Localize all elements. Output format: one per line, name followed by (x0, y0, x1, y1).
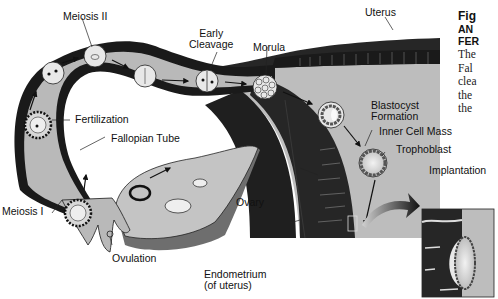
figure-body-line-4: the (458, 89, 498, 103)
meiosis-i-cell (65, 200, 91, 226)
label-endometrium: Endometrium (of uterus) (204, 269, 266, 291)
blastocyst-cell (318, 102, 344, 128)
trophoblast-cell (359, 149, 387, 177)
figure-heading-line-1: AN (458, 23, 498, 35)
fertilization-cell (25, 112, 51, 138)
figure-caption: Fig AN FER The Fal clea the the (458, 10, 498, 116)
morula-cell (253, 75, 277, 99)
figure-body: The Fal clea the the (458, 48, 498, 116)
label-early-cleavage: Early Cleavage (189, 28, 233, 50)
label-ovulation: Ovulation (112, 253, 156, 264)
figure-body-line-2: Fal (458, 62, 498, 76)
figure-title: Fig (458, 10, 498, 23)
early-cleavage-cell (196, 70, 218, 92)
label-fertilization: Fertilization (75, 114, 129, 125)
label-trophoblast: Trophoblast (396, 144, 451, 155)
label-morula: Morula (253, 42, 285, 53)
two-cell-stage (134, 65, 156, 87)
label-uterus: Uterus (365, 7, 396, 18)
label-inner-cell-mass: Inner Cell Mass (379, 126, 452, 137)
label-ovary: Ovary (236, 197, 264, 208)
label-endometrium-line2: (of uterus) (204, 280, 266, 291)
label-meiosis-ii: Meiosis II (63, 11, 107, 22)
label-fallopian-tube: Fallopian Tube (111, 133, 180, 144)
zygote-cell (42, 62, 64, 84)
label-meiosis-i: Meiosis I (2, 206, 43, 217)
implantation-inset (422, 209, 494, 297)
figure-body-line-3: clea (458, 75, 498, 89)
label-implantation: Implantation (429, 165, 486, 176)
label-blastocyst-line2: Formation (371, 111, 419, 122)
figure-body-line-5: the (458, 102, 498, 116)
figure-body-line-1: The (458, 48, 498, 62)
label-blastocyst-formation: Blastocyst Formation (371, 100, 419, 122)
label-early-cleavage-line2: Cleavage (189, 39, 233, 50)
figure-heading-line-2: FER (458, 35, 498, 47)
meiosis-ii-cell (84, 45, 106, 67)
